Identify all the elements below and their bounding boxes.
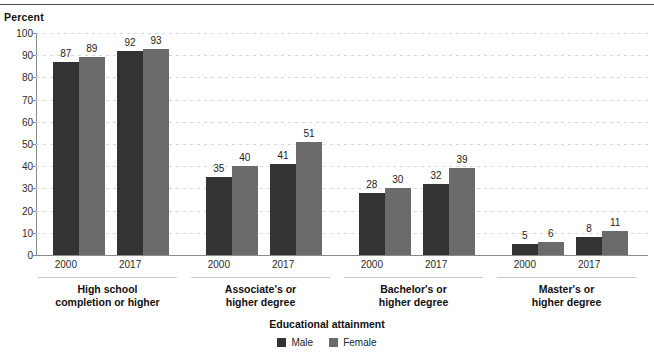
- y-tick-label: 20: [3, 205, 33, 216]
- legend: MaleFemale: [0, 337, 654, 348]
- x-tick-label-2000: 2000: [361, 259, 383, 270]
- y-tick-label: 100: [3, 28, 33, 39]
- y-tick-label: 40: [3, 161, 33, 172]
- bar-value-label: 32: [431, 170, 442, 181]
- bar-value-label: 93: [151, 35, 162, 46]
- bar-value-label: 39: [457, 154, 468, 165]
- y-tick-label: 70: [3, 94, 33, 105]
- bar-value-label: 51: [304, 128, 315, 139]
- x-axis-title: Educational attainment: [0, 318, 654, 330]
- y-tick-label: 0: [3, 250, 33, 261]
- bar-male-2017-g1[interactable]: [117, 51, 143, 255]
- y-axis-ticks: 0102030405060708090100: [0, 33, 33, 256]
- bar-male-2000-g1[interactable]: [53, 62, 79, 255]
- bar-female-2017-g3[interactable]: [449, 168, 475, 255]
- bar-value-label: 11: [610, 217, 620, 228]
- legend-item-male[interactable]: Male: [277, 337, 313, 348]
- group-separator: [38, 277, 177, 278]
- bar-value-label: 87: [60, 48, 71, 59]
- group-separator: [191, 277, 330, 278]
- y-tick-label: 90: [3, 50, 33, 61]
- y-tick-label: 60: [3, 116, 33, 127]
- bar-value-label: 28: [366, 179, 377, 190]
- bar-female-2000-g1[interactable]: [79, 57, 105, 255]
- bar-male-2017-g2[interactable]: [270, 164, 296, 255]
- bar-value-label: 35: [213, 163, 224, 174]
- y-axis-title: Percent: [4, 11, 44, 23]
- bar-value-label: 8: [586, 223, 592, 234]
- header-divider: [0, 4, 654, 5]
- x-tick-label-2000: 2000: [55, 259, 77, 270]
- bar-value-label: 40: [239, 152, 250, 163]
- legend-swatch-male: [277, 338, 286, 347]
- x-tick-label-2017: 2017: [578, 259, 600, 270]
- group-label: Master's or higher degree: [532, 283, 601, 308]
- x-axis-baseline: [36, 255, 648, 256]
- x-tick-label-2000: 2000: [514, 259, 536, 270]
- bar-value-label: 89: [86, 43, 97, 54]
- legend-label: Female: [343, 337, 376, 348]
- bar-male-2017-g4[interactable]: [576, 237, 602, 255]
- group-label: Bachelor's or higher degree: [379, 283, 448, 308]
- bar-female-2000-g2[interactable]: [232, 166, 258, 255]
- x-tick-label-2017: 2017: [119, 259, 141, 270]
- y-tick-label: 10: [3, 227, 33, 238]
- group-separator: [344, 277, 483, 278]
- bar-chart: Percent 0102030405060708090100 878992933…: [0, 0, 654, 354]
- bar-value-label: 41: [278, 150, 289, 161]
- bar-male-2000-g3[interactable]: [359, 193, 385, 255]
- x-tick-label-2017: 2017: [425, 259, 447, 270]
- bar-female-2017-g2[interactable]: [296, 142, 322, 255]
- group-separator: [497, 277, 636, 278]
- y-tick-label: 30: [3, 183, 33, 194]
- x-tick-label-2000: 2000: [208, 259, 230, 270]
- bar-female-2017-g1[interactable]: [143, 49, 169, 255]
- legend-item-female[interactable]: Female: [329, 337, 376, 348]
- bar-value-label: 6: [548, 228, 554, 239]
- plot-area: 87899293354041512830323956811: [36, 33, 648, 255]
- bar-female-2000-g4[interactable]: [538, 242, 564, 255]
- gridline: [36, 33, 648, 34]
- bar-value-label: 92: [125, 37, 136, 48]
- y-tick-label: 50: [3, 139, 33, 150]
- legend-label: Male: [291, 337, 313, 348]
- bar-female-2017-g4[interactable]: [602, 231, 628, 255]
- x-tick-label-2017: 2017: [272, 259, 294, 270]
- bar-value-label: 5: [522, 230, 528, 241]
- bar-value-label: 30: [392, 174, 403, 185]
- bar-male-2017-g3[interactable]: [423, 184, 449, 255]
- group-label: Associate's or higher degree: [225, 283, 296, 308]
- bar-female-2000-g3[interactable]: [385, 188, 411, 255]
- legend-swatch-female: [329, 338, 338, 347]
- y-tick-label: 80: [3, 72, 33, 83]
- bar-male-2000-g2[interactable]: [206, 177, 232, 255]
- bar-male-2000-g4[interactable]: [512, 244, 538, 255]
- group-label: High school completion or higher: [55, 283, 159, 308]
